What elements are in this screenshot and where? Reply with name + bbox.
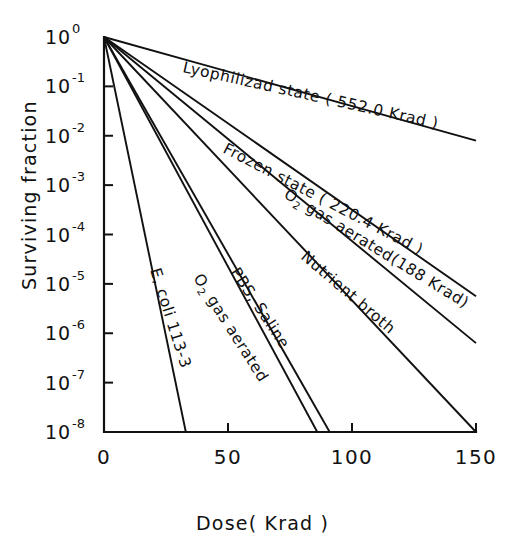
y-tick-mantissa: 10: [45, 125, 71, 147]
y-tick-exponent: 0: [72, 21, 80, 36]
curve-label-lyophilized-state-552-0-krad: Lyophilizad state ( 552.0 Krad ): [181, 58, 440, 132]
y-tick-exponent: -2: [72, 120, 85, 135]
y-tick-labels: 10010-110-210-310-410-510-610-710-8: [45, 21, 85, 443]
y-tick-exponent: -7: [72, 367, 85, 382]
y-tick-mantissa: 10: [45, 322, 71, 344]
y-tick-exponent: -5: [72, 268, 85, 283]
curve-label-text: Lyophilizad state ( 552.0 Krad ): [181, 58, 440, 132]
curve-label-frozen-state-220-4-krad: Frozen state ( 220.4 Krad ): [220, 140, 426, 259]
y-tick-label: 10-2: [45, 120, 85, 147]
y-tick-mantissa: 10: [45, 26, 71, 48]
y-tick-exponent: -6: [72, 317, 85, 332]
y-tick-mantissa: 10: [45, 224, 71, 246]
curve-label-text: O2 gas aerated: [188, 270, 272, 386]
y-tick-exponent: -4: [72, 219, 85, 234]
y-tick-exponent: -3: [72, 169, 85, 184]
curve-frozen-state-220-4-krad: [104, 37, 476, 296]
y-tick-label: 10-6: [45, 317, 85, 344]
x-tick-label: 150: [455, 445, 498, 469]
y-tick-label: 10-7: [45, 367, 85, 394]
y-tick-label: 10-4: [45, 219, 85, 246]
x-tick-label: 0: [97, 445, 111, 469]
survival-curve-chart: 10010-110-210-310-410-510-610-710-8 0501…: [0, 0, 518, 550]
curve-label-text: Frozen state ( 220.4 Krad ): [220, 140, 426, 259]
y-tick-label: 10-1: [45, 70, 85, 97]
y-tick-label: 100: [45, 21, 80, 48]
x-tick-label: 100: [331, 445, 374, 469]
curve-e-coli-113-3: [104, 37, 186, 432]
curve-label-o2-gas-aerated: O2 gas aerated: [188, 270, 272, 386]
y-axis-title: Surviving fraction: [18, 100, 40, 290]
y-tick-mantissa: 10: [45, 75, 71, 97]
y-tick-label: 10-3: [45, 169, 85, 196]
y-tick-mantissa: 10: [45, 421, 71, 443]
y-tick-exponent: -8: [72, 416, 85, 431]
x-tick-marks: [228, 423, 476, 432]
y-tick-label: 10-8: [45, 416, 85, 443]
y-tick-label: 10-5: [45, 268, 85, 295]
x-tick-label: 50: [214, 445, 242, 469]
curve-labels: Lyophilizad state ( 552.0 Krad )Frozen s…: [146, 58, 472, 386]
x-tick-labels: 050100150: [97, 445, 497, 469]
figure-container: 10010-110-210-310-410-510-610-710-8 0501…: [0, 0, 518, 550]
y-tick-mantissa: 10: [45, 273, 71, 295]
x-axis-title: Dose( Krad ): [196, 512, 329, 534]
y-tick-exponent: -1: [72, 70, 85, 85]
y-tick-mantissa: 10: [45, 372, 71, 394]
y-tick-marks: [104, 86, 113, 432]
y-tick-mantissa: 10: [45, 174, 71, 196]
